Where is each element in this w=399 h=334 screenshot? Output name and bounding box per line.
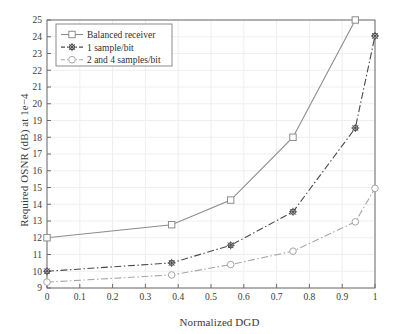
x-tick-label: 0.8 xyxy=(303,292,315,302)
legend-label: 2 and 4 samples/bit xyxy=(87,55,161,65)
series-marker xyxy=(227,261,234,268)
series-marker xyxy=(352,219,359,226)
x-tick-label: 0 xyxy=(45,292,50,302)
y-tick-label: 16 xyxy=(33,166,43,176)
y-tick-label: 20 xyxy=(33,99,43,109)
chart-plot-svg: 91011121314151617181920212223242500.10.2… xyxy=(0,0,399,334)
x-tick-label: 0.9 xyxy=(336,292,348,302)
legend-marker xyxy=(69,31,75,37)
y-tick-label: 25 xyxy=(33,15,43,25)
series-marker xyxy=(168,221,174,227)
x-tick-label: 0.5 xyxy=(205,292,217,302)
x-tick-label: 0.7 xyxy=(271,292,283,302)
series-marker xyxy=(44,235,50,241)
y-tick-label: 21 xyxy=(33,82,43,92)
series-marker xyxy=(290,134,296,140)
y-tick-label: 18 xyxy=(33,133,43,143)
y-tick-label: 22 xyxy=(33,66,43,76)
y-tick-label: 14 xyxy=(33,200,43,210)
series-marker xyxy=(227,197,233,203)
y-tick-label: 23 xyxy=(33,49,43,59)
y-tick-label: 24 xyxy=(33,32,43,42)
x-tick-label: 0.4 xyxy=(172,292,184,302)
y-tick-label: 10 xyxy=(33,267,43,277)
y-tick-label: 13 xyxy=(33,216,43,226)
x-tick-label: 0.1 xyxy=(74,292,86,302)
y-tick-label: 11 xyxy=(33,250,42,260)
y-tick-label: 9 xyxy=(37,283,42,293)
y-axis-title: Required OSNR (dB) at 1e−4 xyxy=(18,60,30,260)
x-tick-label: 1 xyxy=(373,292,378,302)
series-marker xyxy=(168,272,175,279)
x-tick-label: 0.2 xyxy=(107,292,119,302)
y-tick-label: 17 xyxy=(33,149,43,159)
x-tick-label: 0.6 xyxy=(238,292,250,302)
y-tick-label: 15 xyxy=(33,183,43,193)
chart-legend: Balanced receiver1 sample/bit2 and 4 sam… xyxy=(56,24,172,66)
y-tick-label: 12 xyxy=(33,233,43,243)
chart-figure: 91011121314151617181920212223242500.10.2… xyxy=(0,0,399,334)
series-marker xyxy=(352,17,358,23)
legend-label: Balanced receiver xyxy=(87,30,156,40)
x-tick-label: 0.3 xyxy=(139,292,151,302)
y-tick-label: 19 xyxy=(33,116,43,126)
series-marker xyxy=(372,185,379,192)
series-marker xyxy=(44,279,51,286)
legend-label: 1 sample/bit xyxy=(87,43,134,53)
x-axis-title: Normalized DGD xyxy=(0,316,399,328)
series-marker xyxy=(290,248,297,255)
legend-marker xyxy=(69,56,76,63)
legend-item-2[interactable]: 1 sample/bit xyxy=(61,43,134,53)
